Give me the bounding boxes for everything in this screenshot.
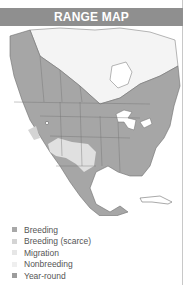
caribbean-islands — [140, 196, 172, 204]
swatch-year-round — [12, 273, 17, 278]
swatch-breeding — [12, 227, 17, 232]
legend-label: Breeding — [24, 225, 58, 235]
legend-label: Nonbreeding — [24, 259, 73, 269]
city-marker — [45, 121, 48, 124]
legend-label: Breeding (scarce) — [24, 236, 91, 246]
swatch-breeding-scarce — [12, 239, 17, 244]
swatch-migration — [12, 250, 17, 255]
legend-item-breeding-scarce: Breeding (scarce) — [12, 236, 91, 248]
map-legend: Breeding Breeding (scarce) Migration Non… — [12, 224, 91, 282]
legend-item-year-round: Year-round — [12, 270, 91, 282]
swatch-nonbreeding — [12, 262, 17, 267]
range-map-panel: RANGE MAP — [0, 0, 183, 285]
panel-title: RANGE MAP — [0, 8, 183, 26]
legend-label: Year-round — [24, 271, 66, 281]
legend-label: Migration — [24, 248, 59, 258]
legend-item-nonbreeding: Nonbreeding — [12, 259, 91, 271]
north-america-range-map — [0, 26, 183, 216]
legend-item-breeding: Breeding — [12, 224, 91, 236]
legend-item-migration: Migration — [12, 247, 91, 259]
